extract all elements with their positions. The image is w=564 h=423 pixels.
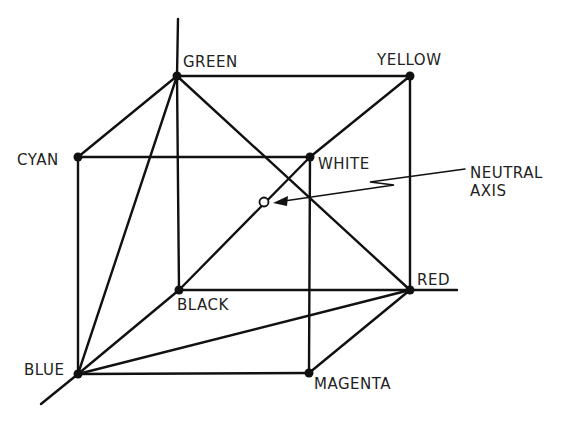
vertex-dot-red — [406, 286, 415, 295]
annotation-neutral: NEUTRAL — [470, 164, 543, 182]
vertex-dot-magenta — [305, 369, 314, 378]
vertex-dot-white — [306, 153, 315, 162]
vertex-dot-cyan — [74, 153, 83, 162]
vertex-dot-blue — [74, 370, 83, 379]
vertex-dot-black — [175, 286, 184, 295]
label-red: RED — [417, 271, 450, 289]
label-cyan: CYAN — [17, 151, 59, 169]
green-axis-line — [177, 19, 178, 76]
label-green: GREEN — [183, 53, 238, 71]
diagonal-green-blue — [78, 76, 177, 374]
edge-green-black — [177, 76, 179, 290]
edge-green-cyan — [78, 76, 177, 157]
edge-white-magenta — [309, 157, 310, 373]
annotation-leader-line — [284, 169, 465, 201]
edge-blue-magenta — [78, 373, 309, 374]
label-white: WHITE — [318, 155, 370, 173]
arrowhead-icon — [273, 196, 288, 206]
vertex-dot-yellow — [406, 72, 415, 81]
neutral-axis-line — [179, 157, 310, 290]
label-black: BLACK — [177, 296, 229, 314]
vertex-dot-green — [173, 72, 182, 81]
label-blue: BLUE — [24, 361, 64, 379]
color-cube-diagram: GREEN YELLOW CYAN WHITE BLACK RED BLUE M… — [0, 0, 564, 423]
edge-yellow-white — [310, 76, 410, 157]
label-magenta: MAGENTA — [314, 375, 391, 393]
label-yellow: YELLOW — [376, 51, 441, 69]
neutral-point-marker — [260, 198, 269, 207]
annotation-axis: AXIS — [470, 182, 506, 200]
